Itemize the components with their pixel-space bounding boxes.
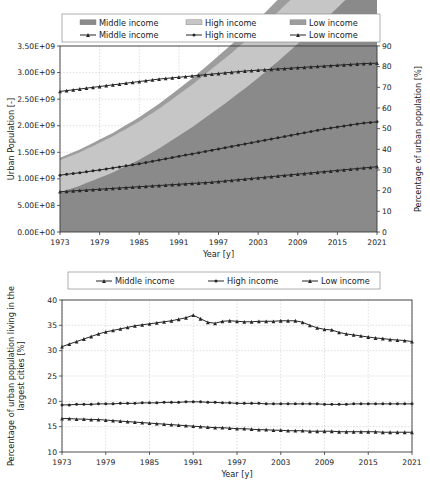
marker-circle [170,401,173,404]
marker-circle [215,280,218,283]
y2tick-label: 70 [382,83,392,92]
xtick-label: 1991 [184,458,203,467]
marker-circle [250,141,253,144]
marker-circle [237,144,240,147]
ytick-label: 30 [47,346,57,355]
legend-marker [193,34,196,37]
marker-circle [68,403,71,406]
marker-circle [356,122,359,125]
ytick-label: 3.00E+09 [17,68,55,77]
ytick-label: 35 [47,321,57,330]
xtick-label: 1985 [140,458,159,467]
marker-circle [330,403,333,406]
marker-circle [125,164,128,167]
marker-circle [119,402,122,405]
ytick-label: 0.00E+00 [17,228,55,237]
y2tick-label: 80 [382,62,392,71]
marker-circle [104,402,107,405]
marker-circle [352,402,355,405]
marker-circle [316,129,319,132]
marker-circle [359,402,362,405]
legend-label-area: Middle income [99,18,159,28]
yaxis-title-line1: Percentage of urban population living in… [6,286,16,466]
marker-circle [171,156,174,159]
marker-circle [92,169,95,172]
marker-circle [228,401,231,404]
xtick-label: 1985 [130,238,149,247]
legend-label: Middle income [115,276,175,286]
marker-circle [214,401,217,404]
xtick-label: 1991 [169,238,188,247]
marker-circle [236,402,239,405]
marker-circle [290,134,293,137]
marker-circle [283,135,286,138]
marker-circle [243,402,246,405]
xtick-label: 2003 [248,238,267,247]
marker-circle [164,157,167,160]
marker-circle [323,403,326,406]
ytick-label: 40 [47,296,57,305]
urban-population-svg: 0.00E+005.00E+081.00E+091.50E+092.00E+09… [0,0,430,262]
marker-circle [75,403,78,406]
legend-label: High income [227,276,278,286]
marker-circle [396,402,399,405]
marker-circle [105,167,108,170]
xtick-label: 2009 [315,458,334,467]
marker-circle [374,402,377,405]
marker-circle [133,402,136,405]
marker-circle [177,401,180,404]
ytick-label: 3.50E+09 [17,42,55,51]
marker-circle [217,147,220,150]
marker-circle [296,133,299,136]
marker-circle [336,126,339,129]
ytick-label: 1.00E+09 [17,174,55,183]
xtick-label: 2009 [288,238,307,247]
marker-circle [243,142,246,145]
yaxis-title: Urban Population [-] [6,98,16,180]
yaxis-title-line2: largest cities [%] [16,341,26,410]
xtick-label: 1973 [52,458,71,467]
marker-circle [126,402,129,405]
legend-label-area: High income [205,18,256,28]
xaxis-title: Year [y] [202,249,234,259]
marker-circle [118,165,121,168]
marker-circle [294,402,297,405]
marker-circle [90,403,93,406]
marker-circle [362,122,365,125]
y2tick-label: 90 [382,42,392,51]
marker-circle [65,173,68,176]
y2tick-label: 20 [382,186,392,195]
marker-circle [111,166,114,169]
marker-circle [82,403,85,406]
legend-label: Low income [321,276,370,286]
y2tick-label: 40 [382,145,392,154]
marker-circle [316,402,319,405]
y2tick-label: 0 [382,228,387,237]
legend-label-line: Low income [309,30,358,40]
marker-circle [72,172,75,175]
marker-circle [345,403,348,406]
marker-circle [204,150,207,153]
ytick-label: 5.00E+08 [17,201,55,210]
marker-circle [367,402,370,405]
marker-circle [287,402,290,405]
marker-circle [389,402,392,405]
marker-circle [369,121,372,124]
marker-circle [78,171,81,174]
marker-circle [192,400,195,403]
marker-circle [138,162,141,165]
marker-circle [257,140,260,143]
xaxis-title: Year [y] [220,469,252,479]
marker-circle [250,402,253,405]
largest-cities-svg: 1015202530354019731979198519911997200320… [0,262,430,489]
marker-circle [184,400,187,403]
xtick-label: 1979 [96,458,115,467]
marker-circle [279,402,282,405]
xtick-label: 2015 [328,238,347,247]
ytick-label: 20 [47,397,57,406]
y2tick-label: 10 [382,207,392,216]
y2tick-label: 60 [382,104,392,113]
marker-circle [272,402,275,405]
panel-bg [0,262,430,489]
xtick-label: 2003 [271,458,290,467]
